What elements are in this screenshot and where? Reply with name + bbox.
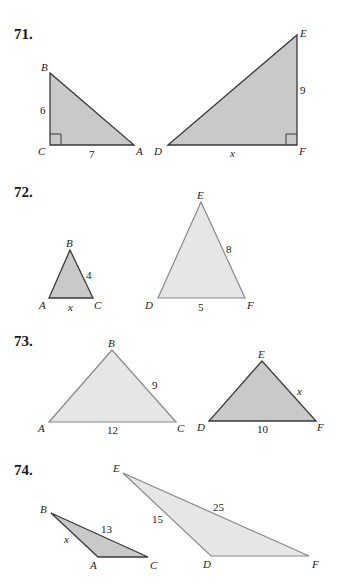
vertex-label-b: B [66, 237, 73, 249]
vertex-label-d: D [153, 145, 162, 157]
vertex-label-a: A [38, 299, 46, 311]
vertex-label-f: F [311, 558, 319, 570]
side-label-ca: 7 [89, 148, 95, 160]
vertex-label-b: B [41, 61, 48, 73]
vertex-label-c: C [94, 299, 102, 311]
triangle-def-74: E D F 15 25 [112, 462, 319, 570]
vertex-label-d: D [144, 299, 153, 311]
side-label-bc: 13 [101, 523, 113, 535]
vertex-label-d: D [196, 421, 205, 433]
triangle-def-71: E D F 9 x [153, 27, 307, 159]
side-label-bc: 6 [40, 104, 46, 116]
side-label-bc: 4 [86, 269, 92, 281]
triangle-abc-72: B A C 4 x [38, 237, 102, 313]
vertex-label-c: C [150, 559, 158, 571]
vertex-label-e: E [257, 348, 265, 360]
figures-canvas: B C A 6 7 E D F 9 x B A C 4 x E D F 8 5 … [0, 0, 349, 587]
triangle-abc-73: B A C 9 12 [37, 337, 185, 436]
side-label-df: 10 [257, 423, 269, 435]
side-label-ef: 25 [213, 501, 225, 513]
side-label-df: 5 [198, 301, 204, 313]
vertex-label-e: E [112, 462, 120, 474]
triangle-abc-74: B A C x 13 [40, 503, 158, 571]
side-label-ed: 15 [152, 513, 164, 525]
vertex-label-f: F [246, 299, 254, 311]
vertex-label-d: D [202, 558, 211, 570]
side-label-ef: 8 [226, 243, 232, 255]
side-label-ba: x [63, 533, 69, 545]
vertex-label-e: E [299, 27, 307, 39]
side-label-ef: 9 [300, 84, 306, 96]
triangle-def-72: E D F 8 5 [144, 189, 254, 313]
vertex-label-c: C [177, 422, 185, 434]
triangle-abc-71: B C A 6 7 [38, 61, 143, 160]
vertex-label-b: B [40, 503, 47, 515]
vertex-label-c: C [38, 145, 46, 157]
vertex-label-a: A [37, 422, 45, 434]
vertex-label-e: E [196, 189, 204, 201]
vertex-label-f: F [316, 421, 324, 433]
side-label-ac: 12 [107, 424, 118, 436]
vertex-label-f: F [298, 145, 306, 157]
side-label-df: x [229, 147, 235, 159]
side-label-ac: x [67, 301, 73, 313]
vertex-label-a: A [89, 559, 97, 571]
side-label-bc: 9 [152, 379, 158, 391]
triangle-def-73: E D F x 10 [196, 348, 324, 435]
side-label-ef: x [296, 385, 302, 397]
vertex-label-a: A [135, 145, 143, 157]
vertex-label-b: B [108, 337, 115, 349]
